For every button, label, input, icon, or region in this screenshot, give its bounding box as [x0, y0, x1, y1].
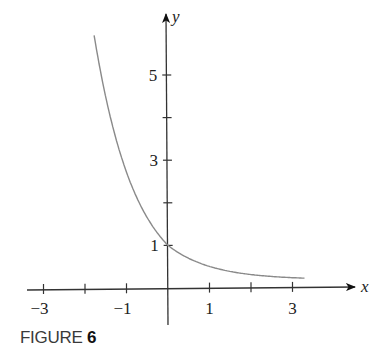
exponential-decay-curve [94, 35, 304, 278]
y-tick-label: 5 [149, 66, 158, 85]
y-axis-label: y [170, 7, 180, 26]
x-tick-label: 3 [288, 299, 297, 318]
x-axis-label: x [360, 277, 369, 296]
figure-caption: FIGURE 6 [20, 328, 96, 348]
caption-label: FIGURE [20, 328, 82, 347]
y-axis [166, 14, 168, 325]
x-axis [27, 287, 355, 290]
x-tick-label: −3 [30, 299, 48, 318]
x-tick-label: 1 [205, 299, 214, 318]
y-tick-label: 1 [150, 236, 159, 255]
x-tick-label: −1 [113, 299, 131, 318]
caption-number: 6 [87, 328, 96, 347]
y-tick-label: 3 [149, 151, 158, 170]
chart-figure: −3−113 135 x y [0, 0, 386, 357]
